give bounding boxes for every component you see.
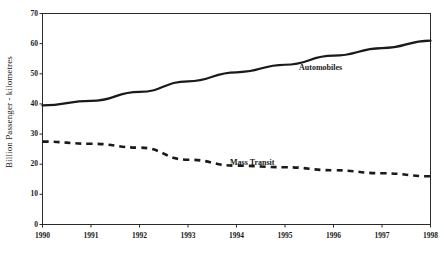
x-axis-tick-label: 1994 bbox=[217, 231, 257, 240]
y-axis-tick-label: 50 bbox=[18, 70, 38, 78]
y-axis-tick-label: 10 bbox=[18, 190, 38, 198]
y-axis-tick-labels: 010203040506070 bbox=[16, 0, 38, 257]
line-chart: Billion Passenger - kilometres 010203040… bbox=[0, 0, 444, 257]
x-axis-tick-label: 1990 bbox=[23, 231, 63, 240]
x-axis-tick-label: 1997 bbox=[362, 231, 402, 240]
x-axis-tick-label: 1998 bbox=[411, 231, 444, 240]
y-axis-tick-label: 20 bbox=[18, 160, 38, 168]
plot-frame bbox=[43, 14, 431, 225]
y-axis-tick-label: 70 bbox=[18, 10, 38, 18]
plot-area bbox=[0, 0, 444, 257]
series-line-automobiles bbox=[43, 41, 431, 106]
series-label-automobiles: Automobiles bbox=[299, 63, 342, 73]
y-axis-tick-label: 60 bbox=[18, 40, 38, 48]
series-lines bbox=[43, 41, 431, 177]
x-axis-tick-label: 1996 bbox=[314, 231, 354, 240]
y-axis-title: Billion Passenger - kilometres bbox=[2, 0, 16, 224]
y-axis-tick-label: 40 bbox=[18, 100, 38, 108]
x-axis-tick-label: 1992 bbox=[120, 231, 160, 240]
x-axis-tick-label: 1995 bbox=[265, 231, 305, 240]
x-axis-tick-label: 1991 bbox=[71, 231, 111, 240]
series-label-mass-transit: Mass Transit bbox=[230, 158, 274, 168]
y-axis-tick-label: 30 bbox=[18, 130, 38, 138]
y-axis-tick-label: 0 bbox=[18, 221, 38, 229]
x-axis-tick-label: 1993 bbox=[168, 231, 208, 240]
